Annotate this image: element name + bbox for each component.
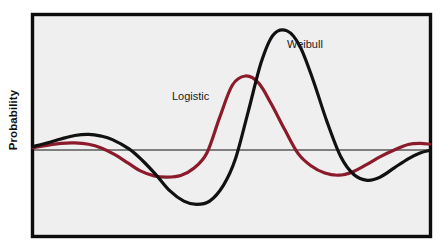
- plot-background: [33, 15, 430, 236]
- series-label-weibull: Weibull: [287, 38, 323, 50]
- plot-canvas: [0, 0, 444, 251]
- figure-container: Probability Weibull Logistic: [0, 0, 444, 251]
- series-label-logistic: Logistic: [172, 90, 209, 102]
